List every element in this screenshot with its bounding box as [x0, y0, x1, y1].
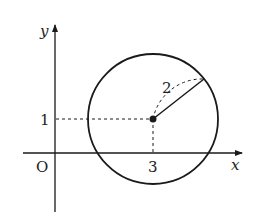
coordinate-diagram: y x O 1 3 2	[0, 0, 256, 224]
y-axis-label: y	[39, 22, 49, 40]
x-tick-label: 3	[148, 158, 158, 176]
origin-label: O	[36, 158, 48, 176]
radius-label: 2	[162, 79, 172, 97]
x-axis-label: x	[231, 156, 240, 174]
center-point	[150, 116, 157, 123]
y-tick-label: 1	[40, 111, 50, 129]
